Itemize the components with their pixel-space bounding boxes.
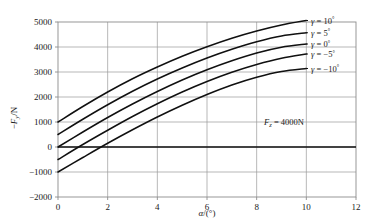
x-tick-label: 10 [302, 202, 312, 212]
load-annotation: Fz = 4000N [263, 117, 304, 128]
y-tick-label: 2000 [34, 92, 53, 102]
x-tick-label: 4 [155, 202, 160, 212]
legend-entry-0: γ = 10° [311, 16, 335, 26]
annotation-value: = 4000N [272, 117, 304, 127]
legend-equals: = 10 [316, 16, 331, 26]
x-tick-label: 2 [105, 202, 110, 212]
legend-equals: = −5 [316, 49, 332, 59]
y-tick-label: 5000 [34, 17, 53, 27]
chart-figure: −2000−1000010002000300040005000 02468101… [0, 0, 382, 224]
legend-equals: = 5 [316, 28, 327, 38]
x-axis-unit: /(°) [203, 208, 215, 218]
y-tick-label: −1000 [29, 167, 53, 177]
legend-entry-3: γ = −5° [311, 49, 335, 59]
y-tick-label: 3000 [34, 67, 53, 77]
y-tick-label: 4000 [34, 42, 53, 52]
legend-equals: = 0 [316, 39, 327, 49]
y-tick-label: −2000 [29, 192, 53, 202]
svg-text:α/(°): α/(°) [199, 208, 216, 218]
x-axis-title: α/(°) [199, 208, 216, 218]
x-tick-label: 12 [352, 202, 361, 212]
y-tick-label: 1000 [34, 117, 53, 127]
legend-equals: = −10 [316, 64, 336, 74]
chart-annotations: Fz = 4000N [263, 117, 304, 128]
chart-canvas: −2000−1000010002000300040005000 02468101… [0, 0, 382, 224]
legend-entry-4: γ = −10° [311, 64, 340, 74]
x-tick-label: 8 [254, 202, 259, 212]
x-tick-label: 0 [56, 202, 61, 212]
y-axis-unit: /N [9, 106, 19, 116]
y-tick-label: 0 [48, 142, 53, 152]
